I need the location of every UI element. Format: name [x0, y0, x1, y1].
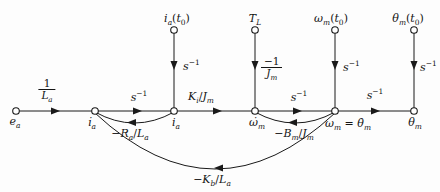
- fraction-numerator: −1: [261, 56, 282, 67]
- fraction-denominator: Jm: [261, 67, 282, 79]
- node-label-ia-dot: i̇a: [88, 117, 96, 130]
- arrowhead-icon: [288, 119, 297, 126]
- node-ea: [13, 108, 20, 115]
- node-wm-t0: [332, 27, 339, 34]
- node-label-ia: ia: [172, 117, 180, 130]
- arrowhead-icon: [332, 61, 339, 70]
- arrowhead-icon: [214, 165, 223, 172]
- top-label-thm-t0: θm(t0): [392, 13, 424, 26]
- node-label-wm-eq-thm-dot: ωm = θ̇m: [325, 118, 371, 131]
- gain-label-Ki-over-Jm: Ki/Jm: [188, 91, 214, 104]
- node-label-ea: ea: [10, 116, 21, 129]
- arrowhead-icon: [293, 108, 302, 115]
- arrowhead-icon: [411, 61, 418, 70]
- node-ia-dot: [92, 108, 99, 115]
- gain-label-neg1-over-Jm: −1 Jm: [261, 56, 282, 79]
- node-wm: [332, 108, 339, 115]
- arrowhead-icon: [371, 108, 380, 115]
- gain-label-neg-Kb-over-La: −Kb/La: [193, 174, 231, 187]
- gain-label-neg-Bm-over-Jm: −Bm/Jm: [274, 128, 314, 141]
- node-TL: [252, 27, 259, 34]
- gain-label-s-inv-1: s−1: [131, 92, 148, 105]
- node-label-wm-dot: ω̇m: [249, 117, 265, 130]
- arrowhead-icon: [51, 108, 60, 115]
- signal-flow-graph-figure: ea i̇a ia ω̇m ωm = θ̇m θm ia(t0) TL ωm(t…: [0, 0, 440, 192]
- node-thm: [411, 108, 418, 115]
- node-wm-dot: [252, 108, 259, 115]
- gain-label-s-inv-wm-branch: s−1: [343, 62, 360, 75]
- top-label-wm-t0: ωm(t0): [314, 13, 348, 26]
- gain-label-neg-Ra-over-La: −Ra/La: [111, 128, 148, 141]
- gain-label-1-over-La: 1 La: [38, 78, 55, 101]
- node-thm-t0: [411, 27, 418, 34]
- fraction-numerator: 1: [38, 78, 55, 89]
- arrowhead-icon: [252, 61, 259, 70]
- top-label-ia-t0: ia(t0): [164, 13, 190, 26]
- arrowhead-icon: [133, 108, 142, 115]
- gain-label-s-inv-2: s−1: [291, 92, 308, 105]
- node-ia: [171, 108, 178, 115]
- gain-label-s-inv-ia-branch: s−1: [183, 61, 200, 74]
- node-ia-t0: [171, 27, 178, 34]
- fraction-denominator: La: [38, 89, 55, 101]
- node-label-thm: θm: [408, 117, 422, 130]
- gain-label-s-inv-3: s−1: [367, 90, 384, 103]
- arrowhead-icon: [127, 119, 136, 126]
- arrowhead-icon: [213, 108, 222, 115]
- top-label-TL: TL: [249, 13, 261, 26]
- gain-label-s-inv-thm-branch: s−1: [420, 62, 437, 75]
- arrowhead-icon: [171, 61, 178, 70]
